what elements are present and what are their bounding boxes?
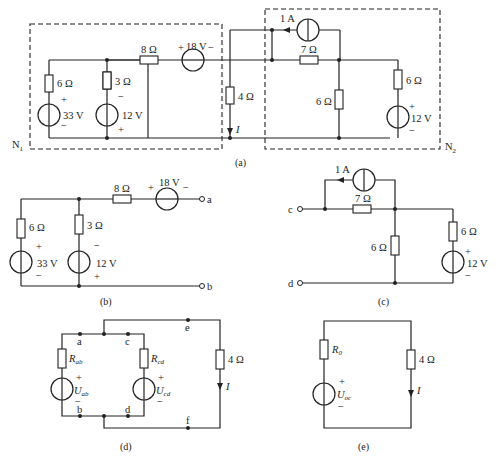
node-dot [77, 284, 81, 288]
label-r3-b: 3 Ω [87, 220, 103, 231]
node-f [186, 426, 190, 430]
resistor-8ohm-b [113, 195, 131, 203]
plus-33v-b: + [36, 241, 42, 252]
label-terminal-d: d [288, 278, 294, 289]
caption-c: (c) [378, 296, 389, 308]
plus-12v-c: + [465, 246, 471, 257]
label-current-i-d: I [225, 381, 230, 392]
resistor-7ohm-c [353, 205, 371, 213]
label-v12-b: 12 V [96, 258, 117, 269]
plus-33v: + [61, 94, 67, 105]
node-dot [102, 332, 106, 336]
node-dot [393, 207, 397, 211]
label-1a: 1 A [280, 13, 295, 24]
resistor-4ohm-d [216, 350, 224, 369]
label-n2: N2 [445, 141, 457, 155]
label-node-e: e [185, 322, 190, 333]
plus-uab: + [76, 372, 82, 383]
label-node-c: c [125, 336, 130, 347]
wire-b [21, 199, 200, 286]
label-current-i-e: I [416, 385, 421, 396]
resistor-6ohm-b [17, 219, 25, 238]
minus-uab: − [75, 396, 81, 407]
label-r6-mid: 6 Ω [316, 96, 332, 107]
resistor-8ohm [140, 56, 158, 64]
circuit-figure: N1 N2 6 Ω + 33 V − 3 Ω − 12 V + [0, 0, 501, 467]
label-r6-n1: 6 Ω [57, 78, 73, 89]
node-dot [102, 414, 106, 418]
minus-12v-n2: − [409, 125, 415, 136]
plus-18v: + [178, 42, 184, 53]
node-dot [337, 58, 341, 62]
label-r4: 4 Ω [238, 91, 254, 102]
minus-18v-b: − [183, 182, 189, 193]
current-arrow-icon [217, 383, 223, 390]
minus-18v: − [208, 42, 214, 53]
label-r6-right-c: 6 Ω [461, 226, 477, 237]
minus-uoc: − [338, 401, 344, 412]
plus-12v-b: + [94, 271, 100, 282]
label-1a-c: 1 A [335, 164, 350, 175]
label-current-i: I [235, 124, 240, 135]
node-dot [337, 136, 341, 140]
wire-n2-link [230, 30, 272, 60]
caption-d: (d) [120, 441, 132, 453]
minus-33v-b: − [36, 270, 42, 281]
resistor-4ohm [226, 87, 234, 104]
label-v33-b: 33 V [37, 258, 58, 269]
minus-ucd: − [157, 396, 163, 407]
label-r6-b: 6 Ω [29, 222, 45, 233]
resistor-4ohm-e [407, 350, 415, 369]
minus-33v: − [61, 120, 67, 131]
resistor-7ohm [300, 56, 318, 64]
figure-e: R0 + Uoc − 4 Ω I (e) [313, 321, 435, 453]
figure-b: 6 Ω + 33 V − 3 Ω − 12 V + 8 Ω + 18 V − a… [10, 177, 212, 308]
node-dot [77, 197, 81, 201]
label-r7: 7 Ω [301, 44, 317, 55]
terminal-a [200, 197, 205, 202]
resistor-6ohm-n1 [45, 75, 53, 92]
caption-a: (a) [235, 157, 246, 169]
resistor-6ohm-mid-c [391, 236, 399, 255]
resistor-rab [58, 349, 66, 368]
caption-b: (b) [100, 296, 112, 308]
label-v18: 18 V [186, 41, 207, 52]
label-terminal-a: a [207, 194, 212, 205]
caption-e: (e) [358, 441, 369, 453]
label-rcd: Rcd [150, 353, 165, 366]
plus-18v-b: + [148, 182, 154, 193]
label-n1: N1 [12, 139, 24, 153]
resistor-6ohm-right [394, 70, 402, 89]
label-r6-mid-c: 6 Ω [371, 242, 387, 253]
label-v12-n2: 12 V [411, 113, 432, 124]
current-direction-arrow-icon [283, 27, 290, 33]
label-v18-b: 18 V [159, 177, 180, 188]
label-r8: 8 Ω [141, 44, 157, 55]
label-r3: 3 Ω [115, 76, 131, 87]
plus-ucd: + [158, 372, 164, 383]
node-dot [323, 207, 327, 211]
resistor-6ohm-right-c [449, 222, 457, 241]
terminal-c [298, 207, 303, 212]
plus-uoc: + [339, 376, 345, 387]
current-arrow-icon [408, 390, 414, 397]
label-node-a: a [77, 336, 82, 347]
label-node-d: d [125, 404, 131, 415]
current-arrow-icon [227, 128, 233, 135]
label-r7-c: 7 Ω [355, 193, 371, 204]
figure-d: a c b d e f Rab + Uab − Rcd + Ucd − 4 Ω … [51, 318, 244, 453]
plus-12v-n1: + [118, 124, 124, 135]
label-node-f: f [186, 415, 190, 426]
resistor-rcd [140, 349, 148, 368]
resistor-3ohm-body [103, 72, 111, 89]
figure-a: N1 N2 6 Ω + 33 V − 3 Ω − 12 V + [12, 9, 457, 169]
terminal-b [200, 284, 205, 289]
minus-12v-c: − [465, 270, 471, 281]
wire-n2 [272, 30, 398, 138]
node-dot [270, 58, 274, 62]
label-v12-c: 12 V [467, 258, 488, 269]
node-dot [393, 281, 397, 285]
terminal-d [298, 281, 303, 286]
label-r0: R0 [331, 344, 342, 357]
node-dot [228, 136, 232, 140]
